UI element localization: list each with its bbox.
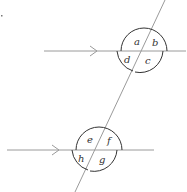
stray-mark xyxy=(1,15,3,17)
angle-label-e: e xyxy=(87,134,93,145)
angle-label-a: a xyxy=(134,36,140,47)
upper-angle-arc-top xyxy=(121,28,167,51)
angle-label-g: g xyxy=(99,154,105,165)
lower-angle-arc-top xyxy=(76,127,122,150)
angle-label-h: h xyxy=(78,153,84,164)
angle-label-f: f xyxy=(106,135,113,146)
angle-label-d: d xyxy=(124,54,130,65)
angle-label-c: c xyxy=(145,55,151,66)
angle-diagram: a b d c e f h g xyxy=(0,0,187,192)
angle-label-b: b xyxy=(152,37,158,48)
